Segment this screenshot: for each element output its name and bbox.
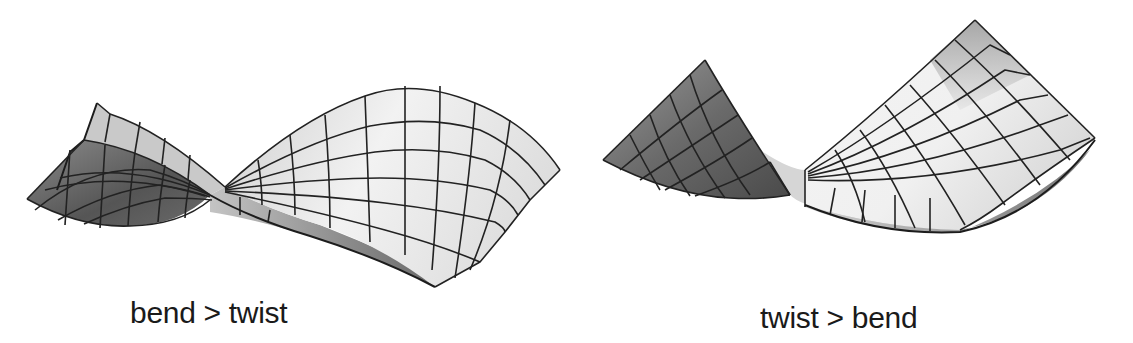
caption-twist-greater-than-bend: twist > bend — [760, 301, 917, 335]
diagram-canvas — [0, 0, 1133, 343]
caption-bend-greater-than-twist: bend > twist — [130, 296, 287, 330]
right-mesh-left-wing — [603, 60, 790, 199]
mesh-twist-dominant — [603, 20, 1095, 232]
left-mesh-light-face — [225, 88, 560, 287]
mesh-bend-dominant — [27, 86, 560, 287]
